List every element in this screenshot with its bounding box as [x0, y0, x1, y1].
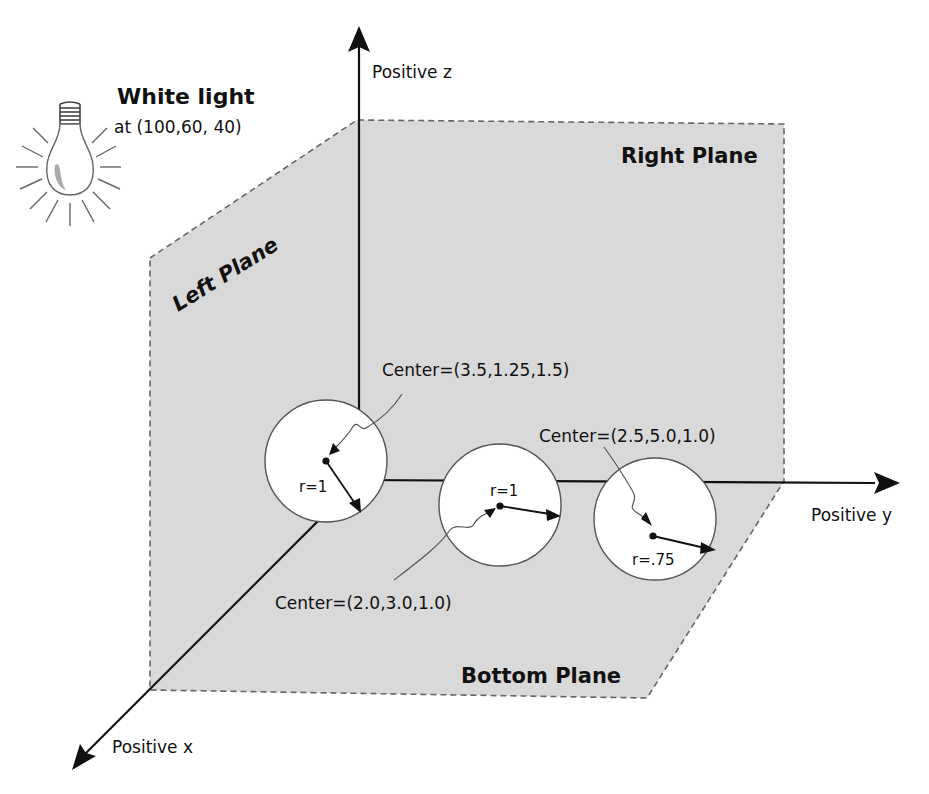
- plane-surface: [150, 120, 784, 698]
- y-arrowhead: [874, 472, 900, 494]
- sphere-2-radius-label: r=1: [490, 482, 518, 500]
- sphere-2-center-label: Center=(2.0,3.0,1.0): [275, 593, 452, 613]
- light-position: at (100,60, 40): [114, 117, 242, 137]
- sphere-1-radius-label: r=1: [299, 478, 327, 496]
- right-plane-label: Right Plane: [621, 144, 758, 168]
- z-axis-label: Positive z: [372, 62, 452, 82]
- sphere-3-center-label: Center=(2.5,5.0,1.0): [539, 426, 716, 446]
- light-bulb-icon: [16, 102, 121, 226]
- planes-region: [150, 120, 784, 698]
- bottom-plane-label: Bottom Plane: [461, 664, 621, 688]
- scene-diagram: White light at (100,60, 40) Positive z P…: [0, 0, 929, 794]
- light-title: White light: [117, 84, 255, 109]
- y-axis-label: Positive y: [811, 505, 892, 525]
- sphere-1-center-label: Center=(3.5,1.25,1.5): [382, 360, 569, 380]
- sphere-3-radius-label: r=.75: [632, 551, 675, 569]
- x-axis-label: Positive x: [112, 737, 193, 757]
